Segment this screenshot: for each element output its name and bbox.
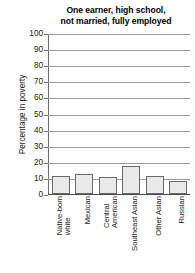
bar-slot <box>120 34 144 194</box>
y-axis-tick <box>44 115 48 116</box>
bars-container <box>49 34 190 194</box>
y-axis-tick-label: 50 <box>34 111 43 119</box>
y-axis-tick-label: 90 <box>34 46 43 54</box>
y-axis-tick <box>44 34 48 35</box>
x-axis-labels: Native-bornwhiteMexicanCentralAmericanSo… <box>48 196 190 272</box>
y-axis-tick-label: 20 <box>34 159 43 167</box>
bar-chart: One earner, high school, not married, fu… <box>0 0 195 273</box>
plot-area: 1009080706050403020100 <box>48 34 190 195</box>
y-axis-tick-label: 10 <box>34 175 43 183</box>
y-axis-tick <box>44 163 48 164</box>
bar <box>52 176 70 194</box>
x-axis-label-line: Mexican <box>84 196 92 224</box>
y-axis-tick-label: 80 <box>34 62 43 70</box>
x-axis-line <box>48 194 190 195</box>
y-axis-tick <box>44 98 48 99</box>
y-axis-tick-label: 70 <box>34 78 43 86</box>
bar <box>75 174 93 194</box>
y-axis-tick-label: 100 <box>29 30 43 38</box>
chart-title-line-2: not married, fully employed <box>40 16 192 27</box>
y-axis-tick <box>44 82 48 83</box>
bar-slot <box>49 34 73 194</box>
y-axis-tick <box>44 66 48 67</box>
x-axis-label: Russian <box>178 196 186 223</box>
x-axis-label: Southeast Asian <box>131 196 139 251</box>
y-axis-tick <box>44 131 48 132</box>
x-axis-label: Other Asian <box>155 196 163 236</box>
bar-slot <box>143 34 167 194</box>
x-axis-label-line: Southeast Asian <box>131 196 139 251</box>
y-axis-tick <box>44 50 48 51</box>
x-axis-label: CentralAmerican <box>103 196 120 228</box>
x-axis-label: Native-bornwhite <box>56 196 73 235</box>
y-axis-tick <box>44 147 48 148</box>
x-axis-label-line: American <box>112 196 120 228</box>
y-axis-tick-label: 0 <box>38 191 43 199</box>
x-axis-label-line: Russian <box>178 196 186 223</box>
y-axis-tick-label: 30 <box>34 143 43 151</box>
y-axis-tick <box>44 179 48 180</box>
bar <box>146 176 164 194</box>
chart-title-line-1: One earner, high school, <box>40 5 192 16</box>
y-axis-title: Percentage in poverty <box>18 55 27 175</box>
x-axis-label-line: white <box>65 196 73 235</box>
bar-slot <box>96 34 120 194</box>
x-axis-label-line: Other Asian <box>155 196 163 236</box>
x-axis-label: Mexican <box>84 196 92 224</box>
bar-slot <box>73 34 97 194</box>
chart-title: One earner, high school, not married, fu… <box>40 5 192 26</box>
y-axis-tick-label: 60 <box>34 94 43 102</box>
bar <box>169 181 187 194</box>
bar-slot <box>167 34 191 194</box>
bar <box>99 177 117 194</box>
y-axis-tick-label: 40 <box>34 127 43 135</box>
bar <box>122 166 140 194</box>
